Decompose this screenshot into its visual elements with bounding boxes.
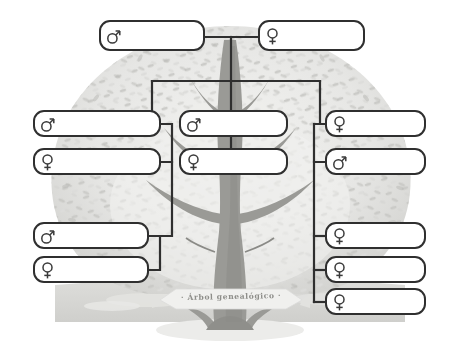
name-plate-g3-right-f2[interactable] <box>325 256 426 283</box>
name-plate-g2-right-female[interactable] <box>325 110 426 137</box>
name-plate-g2-right-male[interactable] <box>325 148 426 175</box>
name-plate-g3-left-male[interactable] <box>33 222 149 249</box>
male-gender-icon <box>39 114 56 134</box>
name-plate-g1-father[interactable] <box>99 20 205 51</box>
name-plate-layer <box>0 0 460 360</box>
female-gender-icon <box>331 292 348 312</box>
name-plate-g2-mid-female[interactable] <box>179 148 288 175</box>
male-gender-icon <box>185 114 202 134</box>
female-gender-icon <box>331 260 348 280</box>
family-tree-worksheet: · Árbol genealógico · <box>0 0 460 360</box>
female-gender-icon <box>39 260 56 280</box>
name-plate-g3-right-f3[interactable] <box>325 288 426 315</box>
name-plate-g2-left-female[interactable] <box>33 148 161 175</box>
name-plate-g1-mother[interactable] <box>258 20 365 51</box>
male-gender-icon <box>105 26 122 46</box>
name-plate-g2-mid-male[interactable] <box>179 110 288 137</box>
name-plate-g2-left-male[interactable] <box>33 110 161 137</box>
male-gender-icon <box>331 152 348 172</box>
female-gender-icon <box>264 26 281 46</box>
female-gender-icon <box>331 114 348 134</box>
name-plate-g3-left-female[interactable] <box>33 256 149 283</box>
female-gender-icon <box>331 226 348 246</box>
female-gender-icon <box>39 152 56 172</box>
female-gender-icon <box>185 152 202 172</box>
name-plate-g3-right-f1[interactable] <box>325 222 426 249</box>
male-gender-icon <box>39 226 56 246</box>
